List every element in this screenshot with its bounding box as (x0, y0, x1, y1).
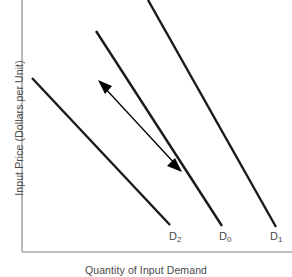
d1-label-subscript: 1 (278, 235, 282, 244)
d1-curve-label: D1 (270, 230, 282, 244)
d2-label-text: D (169, 230, 177, 242)
d1-label-text: D (270, 230, 278, 242)
d2-curve-label: D2 (169, 230, 181, 244)
d2-label-subscript: 2 (177, 235, 181, 244)
x-axis-label: Quantity of Input Demand (0, 264, 292, 276)
y-axis-label: Input Price (Dollars per Unit) (13, 53, 25, 203)
demand-curve-d0 (96, 31, 222, 226)
d0-label-text: D (219, 230, 227, 242)
shift-arrow-head-up (98, 80, 112, 94)
demand-curve-d2 (32, 78, 170, 225)
demand-curve-d1 (148, 0, 276, 227)
d0-curve-label: D0 (219, 230, 231, 244)
input-demand-shift-diagram: Input Price (Dollars per Unit) Quantity … (0, 0, 292, 277)
d0-label-subscript: 0 (227, 235, 231, 244)
plot-area (0, 0, 292, 277)
demand-shift-arrow (98, 80, 182, 172)
